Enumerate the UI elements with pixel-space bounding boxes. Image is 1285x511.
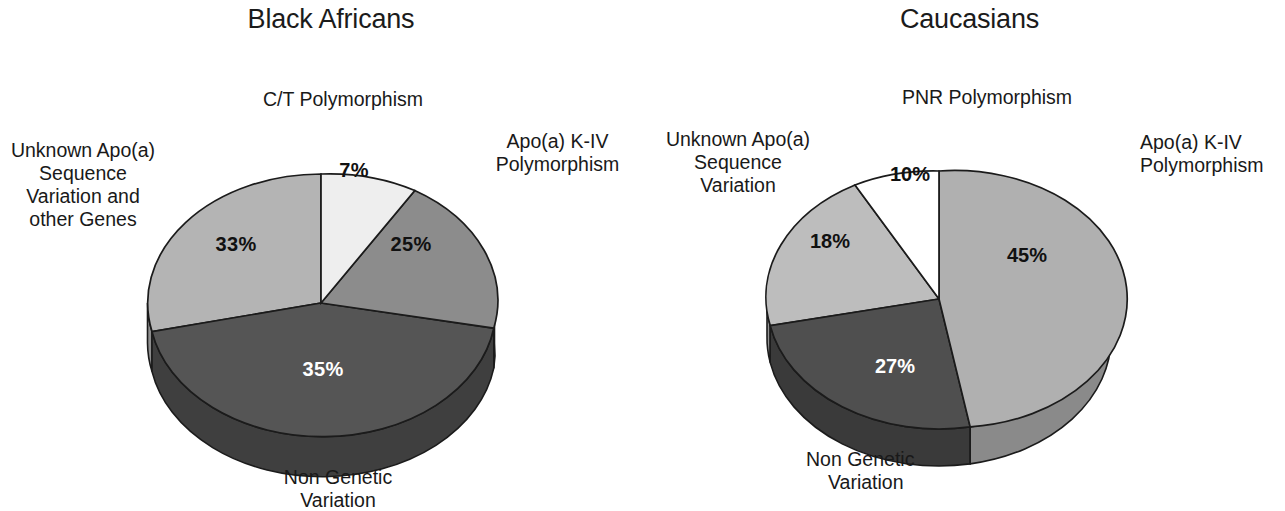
value-label-ct: 7%	[339, 159, 369, 181]
callout-line: Unknown Apo(a)	[648, 128, 828, 151]
callout-line: Polymorphism	[1140, 154, 1285, 177]
panel-caucasians: Caucasians	[642, 0, 1285, 505]
value-label-kiv: 25%	[391, 233, 432, 255]
callout-unknown-sequence: Unknown Apo(a) Sequence Variation and ot…	[0, 139, 168, 231]
value-label-non-genetic: 35%	[303, 358, 344, 380]
value-label-non-genetic: 27%	[875, 355, 915, 377]
panel-black-africans: Black Africans	[0, 0, 642, 505]
slice-kiv-45	[939, 170, 1127, 426]
callout-non-genetic-variation: Non Genetic Variation	[238, 466, 438, 511]
pie-stage-caucasians: 10% 45% 27% 18%	[642, 0, 1285, 505]
callout-line: Sequence	[648, 151, 828, 174]
callout-line: C/T Polymorphism	[228, 88, 458, 111]
callout-non-genetic-variation: Non Genetic Variation	[806, 448, 986, 494]
callout-pnr-polymorphism: PNR Polymorphism	[872, 86, 1102, 109]
pie-stage-black-africans: 7% 25% 35% 33%	[0, 0, 642, 505]
callout-kiv-polymorphism: Apo(a) K-IV Polymorphism	[1140, 131, 1285, 177]
callout-line: Non Genetic	[238, 466, 438, 489]
callout-line: Variation	[806, 471, 986, 494]
value-label-unknown: 33%	[216, 233, 257, 255]
callout-line: Sequence	[0, 162, 168, 185]
value-label-pnr: 10%	[890, 163, 930, 185]
callout-line: PNR Polymorphism	[872, 86, 1102, 109]
callout-line: Variation	[238, 489, 438, 511]
callout-line: Apo(a) K-IV	[470, 130, 645, 153]
callout-line: Variation	[648, 174, 828, 197]
callout-line: Polymorphism	[470, 153, 645, 176]
callout-line: Apo(a) K-IV	[1140, 131, 1285, 154]
value-label-unknown: 18%	[810, 230, 850, 252]
pie-3d-caucasians	[766, 170, 1127, 466]
callout-line: other Genes	[0, 208, 168, 231]
callout-line: Variation and	[0, 185, 168, 208]
callout-ct-polymorphism: C/T Polymorphism	[228, 88, 458, 111]
callout-kiv-polymorphism: Apo(a) K-IV Polymorphism	[470, 130, 645, 176]
pie-3d-black-africans	[148, 174, 498, 477]
callout-unknown-sequence: Unknown Apo(a) Sequence Variation	[648, 128, 828, 197]
callout-line: Unknown Apo(a)	[0, 139, 168, 162]
value-label-kiv: 45%	[1007, 244, 1047, 266]
callout-line: Non Genetic	[806, 448, 986, 471]
